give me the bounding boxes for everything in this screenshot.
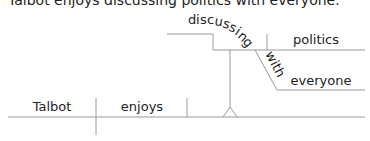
word-verb: enjoys (121, 99, 163, 114)
sentence-diagram: Talbot enjoys politics everyone d i s c … (0, 0, 370, 141)
word-prep-object: everyone (291, 73, 352, 88)
word-object: politics (293, 32, 339, 47)
word-gerund: d i s c u s s i n g (188, 12, 257, 50)
word-preposition: with (262, 48, 288, 79)
pedestal-base (223, 107, 237, 117)
svg-text:s: s (200, 12, 207, 27)
word-subject: Talbot (32, 99, 72, 114)
